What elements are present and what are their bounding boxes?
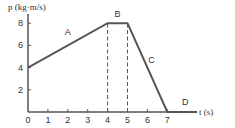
x-tick-label: 1 [45, 115, 50, 125]
y-tick-label: 8 [18, 18, 23, 28]
x-tick-label: 0 [25, 115, 30, 125]
reference-lines [108, 23, 128, 112]
x-tick-label: 6 [145, 115, 150, 125]
y-axis-title: p (kg·m/s) [8, 2, 46, 12]
x-axis-title: t (s) [199, 107, 213, 117]
x-tick-label: 7 [165, 115, 170, 125]
x-tick-label: 2 [65, 115, 70, 125]
y-tick-label: 6 [18, 40, 23, 50]
axes [28, 14, 196, 112]
segment-label-c: C [148, 55, 155, 65]
x-tick-label: 4 [105, 115, 110, 125]
y-ticks: 2468 [18, 18, 31, 95]
x-tick-label: 3 [85, 115, 90, 125]
y-tick-label: 4 [18, 63, 23, 73]
x-tick-label: 5 [125, 115, 130, 125]
segment-label-d: D [182, 97, 189, 107]
momentum-time-chart: 01234567 2468 ABCD p (kg·m/s) t (s) [0, 0, 235, 128]
momentum-line [28, 23, 197, 112]
segment-label-b: B [115, 9, 121, 19]
y-tick-label: 2 [18, 85, 23, 95]
segment-label-a: A [65, 27, 71, 37]
